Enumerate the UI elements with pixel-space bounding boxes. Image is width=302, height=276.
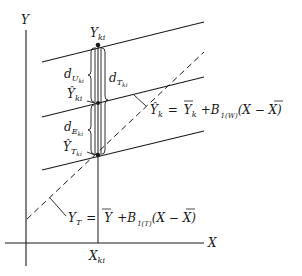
point-y-ki xyxy=(96,43,101,48)
svg-text:YT=Y+B1(T)(X − X): YT=Y+B1(T)(X − X) xyxy=(68,211,196,228)
point-y-hat-t-ki xyxy=(96,153,100,157)
label-y-hat-t-ki: ŶTki xyxy=(63,139,82,157)
label-d-e: dEki xyxy=(64,120,83,137)
label-d-t: dTki xyxy=(109,71,128,88)
svg-text:Ŷk=Yk+B1(W)(X − X): Ŷk=Yk+B1(W)(X − X) xyxy=(150,102,282,120)
label-y-hat-ki: Ŷki xyxy=(67,86,83,103)
label-y-ki: Yki xyxy=(90,26,106,42)
pointer-total-equation xyxy=(50,198,66,216)
point-y-hat-ki xyxy=(96,101,100,105)
equation-total: YT=Y+B1(T)(X − X) xyxy=(68,209,196,228)
brace-d-e xyxy=(88,105,94,154)
regression-diagram: Y X Yki dUki dTki Ŷki dEki ŶTki Xki Ŷk=Y… xyxy=(0,0,302,276)
equation-within-group: Ŷk=Yk+B1(W)(X − X) xyxy=(150,101,283,120)
label-d-u: dUki xyxy=(64,67,84,84)
brace-d-u xyxy=(88,48,94,102)
upper-parallel-line xyxy=(42,22,204,62)
pointer-within-equation xyxy=(134,95,146,106)
y-axis-label: Y xyxy=(21,13,30,27)
x-axis-label: X xyxy=(207,236,217,250)
label-x-ki: Xki xyxy=(88,249,105,265)
